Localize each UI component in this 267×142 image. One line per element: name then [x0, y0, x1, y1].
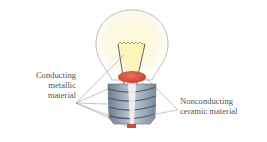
label-nonconducting-ceramic-material: Nonconducting ceramic material — [180, 96, 260, 116]
label-line: metallic — [14, 80, 76, 90]
ceramic-insulator — [118, 71, 146, 83]
label-conducting-metallic-material: Conducting metallic material — [14, 70, 76, 100]
label-line: material — [14, 90, 76, 100]
screw-base — [108, 84, 156, 124]
tip-contact — [127, 124, 136, 128]
label-line: ceramic material — [180, 106, 260, 116]
label-line: Nonconducting — [180, 96, 260, 106]
label-line: Conducting — [14, 70, 76, 80]
